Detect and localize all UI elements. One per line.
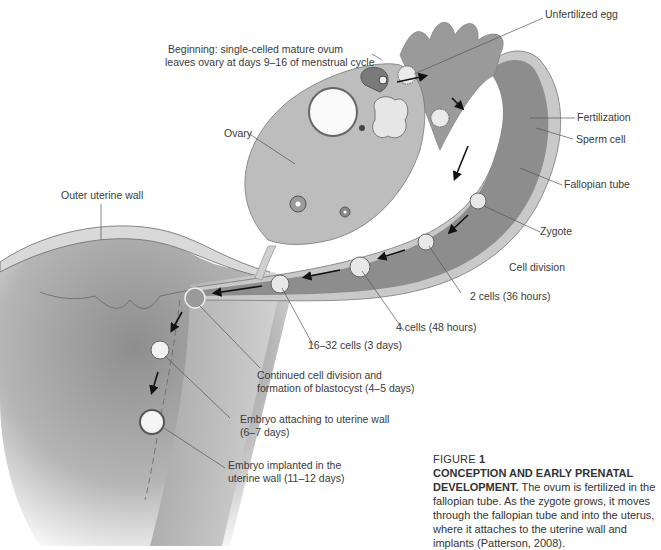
label-outer-uterine-wall: Outer uterine wall [61, 189, 143, 202]
label-ovary: Ovary [224, 127, 252, 140]
label-cell-division: Cell division [509, 261, 565, 274]
figure-word: FIGURE [433, 453, 476, 465]
label-implanted-line2: uterine wall (11–12 days) [228, 472, 345, 485]
label-fertilization: Fertilization [577, 111, 631, 124]
label-4-cells: 4 cells (48 hours) [396, 321, 477, 334]
label-zygote: Zygote [540, 225, 572, 238]
label-2-cells: 2 cells (36 hours) [470, 290, 551, 303]
figure-caption: FIGURE 1 CONCEPTION AND EARLY PRENATAL D… [433, 452, 658, 550]
label-beginning-line2: leaves ovary at days 9–16 of menstrual c… [165, 56, 375, 69]
label-attaching-line2: (6–7 days) [240, 426, 290, 439]
figure-label: FIGURE 1 [433, 452, 658, 466]
uterus [0, 226, 300, 546]
label-16-32-cells: 16–32 cells (3 days) [308, 339, 402, 352]
figure-number: 1 [479, 453, 485, 465]
ovary [245, 64, 425, 245]
label-beginning-line1: Beginning: single-celled mature ovum [168, 43, 343, 56]
label-attaching-line1: Embryo attaching to uterine wall [240, 413, 389, 426]
label-unfertilized-egg: Unfertilized egg [545, 8, 618, 21]
label-blastocyst-line2: formation of blastocyst (4–5 days) [257, 382, 415, 395]
label-blastocyst-line1: Continued cell division and [257, 369, 382, 382]
label-fallopian-tube: Fallopian tube [564, 178, 630, 191]
label-sperm-cell: Sperm cell [576, 133, 626, 146]
label-implanted-line1: Embryo implanted in the [228, 459, 341, 472]
